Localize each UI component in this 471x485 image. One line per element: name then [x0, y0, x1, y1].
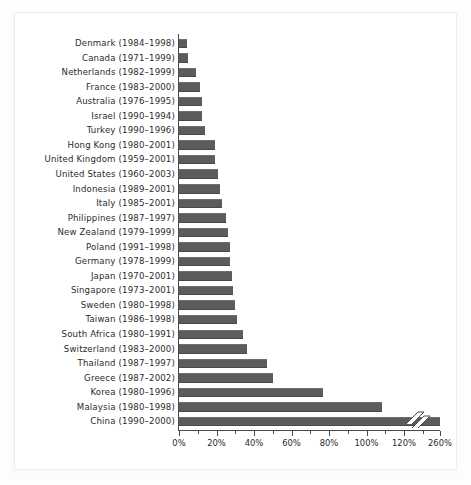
bar-category-label: Greece(1987–2002): [15, 371, 175, 385]
bar-segment: [179, 82, 200, 92]
table-row: Canada(1971–1999): [0, 51, 471, 65]
axis-tick-minor: [385, 431, 386, 434]
bar-category-label: Singapore(1973–2001): [15, 283, 175, 297]
table-row: United Kingdom(1959–2001): [0, 152, 471, 166]
bar-category-label: United Kingdom(1959–2001): [15, 152, 175, 166]
table-row: Australia(1976–1995): [0, 94, 471, 108]
bar-year-range: (1987–2002): [119, 373, 175, 383]
bar-year-range: (1959–2001): [119, 154, 175, 164]
bar-year-range: (1989–2001): [119, 184, 175, 194]
bar-category-label: Philippines(1987–1997): [15, 211, 175, 225]
bar-category-label: Thailand(1987–1997): [15, 356, 175, 370]
bar-segment: [179, 213, 226, 223]
bar-year-range: (1980–1996): [119, 387, 175, 397]
bar-segment: [179, 315, 237, 325]
axis-tick: [440, 431, 441, 436]
bar-year-range: (1979–1999): [119, 227, 175, 237]
bar-year-range: (1978–1999): [119, 256, 175, 266]
table-row: Taiwan(1986–1998): [0, 312, 471, 326]
bar-category-label: United States(1960–2003): [15, 167, 175, 181]
bar-segment: [179, 184, 220, 194]
axis-tick-label: 260%: [428, 438, 452, 448]
axis-tick-label: 80%: [320, 438, 339, 448]
table-row: Switzerland(1983–2000): [0, 342, 471, 356]
bar-year-range: (1976–1995): [119, 96, 175, 106]
bar-year-range: (1980–1998): [119, 402, 175, 412]
bar-segment: [179, 228, 228, 238]
bar-year-range: (1983–2000): [119, 82, 175, 92]
bar-category-label: New Zealand(1979–1999): [15, 225, 175, 239]
bar-year-range: (1980–1991): [119, 329, 175, 339]
bar-segment: [179, 330, 243, 340]
table-row: New Zealand(1979–1999): [0, 225, 471, 239]
table-row: Israel(1990–1994): [0, 109, 471, 123]
table-row: Korea(1980–1996): [0, 385, 471, 399]
table-row: Sweden(1980–1998): [0, 298, 471, 312]
table-row: Singapore(1973–2001): [0, 283, 471, 297]
bar-category-label: Taiwan(1986–1998): [15, 312, 175, 326]
table-row: Japan(1970–2001): [0, 269, 471, 283]
bar-category-label: South Africa(1980–1991): [15, 327, 175, 341]
axis-tick-minor: [198, 431, 199, 434]
bar-year-range: (1990–2000): [119, 416, 175, 426]
chart-figure: Denmark(1984–1998)Canada(1971–1999)Nethe…: [0, 0, 471, 485]
bar-category-label: Denmark(1984–1998): [15, 36, 175, 50]
table-row: Poland(1991–1998): [0, 240, 471, 254]
axis-tick-label: 60%: [282, 438, 301, 448]
bar-segment: [179, 39, 187, 49]
bar-category-label: Indonesia(1989–2001): [15, 182, 175, 196]
bar-segment: [179, 359, 267, 369]
bar-category-label: Switzerland(1983–2000): [15, 342, 175, 356]
bar-segment: [179, 97, 202, 107]
axis-tick: [367, 431, 368, 436]
table-row: Greece(1987–2002): [0, 371, 471, 385]
bar-segment: [179, 199, 222, 209]
table-row: Thailand(1987–1997): [0, 356, 471, 370]
axis-tick: [292, 431, 293, 436]
bar-category-label: Turkey(1990–1996): [15, 123, 175, 137]
axis-tick-minor: [348, 431, 349, 434]
bar-segment: [179, 402, 382, 412]
bar-category-label: Netherlands(1982–1999): [15, 65, 175, 79]
bar-segment: [179, 271, 232, 281]
bar-segment: [179, 242, 230, 252]
bar-year-range: (1973–2001): [119, 285, 175, 295]
bar-year-range: (1960–2003): [119, 169, 175, 179]
axis-tick: [254, 431, 255, 436]
axis-tick: [404, 431, 405, 436]
bar-year-range: (1987–1997): [119, 213, 175, 223]
bar-category-label: Malaysia(1980–1998): [15, 400, 175, 414]
table-row: Hong Kong(1980–2001): [0, 138, 471, 152]
bar-category-label: Japan(1970–2001): [15, 269, 175, 283]
plot-area: Denmark(1984–1998)Canada(1971–1999)Nethe…: [0, 0, 471, 485]
table-row: Germany(1978–1999): [0, 254, 471, 268]
bar-segment: [179, 373, 273, 383]
bar-year-range: (1982–1999): [119, 67, 175, 77]
bar-category-label: Canada(1971–1999): [15, 51, 175, 65]
bar-segment: [179, 68, 196, 78]
bar-category-label: Germany(1978–1999): [15, 254, 175, 268]
bar-category-label: Poland(1991–1998): [15, 240, 175, 254]
bar-year-range: (1983–2000): [119, 344, 175, 354]
table-row: Malaysia(1980–1998): [0, 400, 471, 414]
bar-year-range: (1987–1997): [119, 358, 175, 368]
table-row: China(1990–2000): [0, 414, 471, 428]
axis-tick-label: 20%: [207, 438, 226, 448]
table-row: United States(1960–2003): [0, 167, 471, 181]
table-row: South Africa(1980–1991): [0, 327, 471, 341]
bar-category-label: Australia(1976–1995): [15, 94, 175, 108]
axis-tick-minor: [235, 431, 236, 434]
bar-segment: [179, 155, 215, 165]
axis-tick-minor: [273, 431, 274, 434]
bar-segment: [179, 388, 323, 398]
bar-category-label: France(1983–2000): [15, 80, 175, 94]
axis-tick-minor: [423, 431, 424, 434]
axis-tick-label: 100%: [355, 438, 379, 448]
axis-tick: [179, 431, 180, 436]
bar-category-label: Hong Kong(1980–2001): [15, 138, 175, 152]
axis-tick: [217, 431, 218, 436]
bar-segment: [179, 286, 233, 296]
bar-segment: [179, 257, 230, 267]
bar-category-label: Italy(1985–2001): [15, 196, 175, 210]
bar-year-range: (1991–1998): [119, 242, 175, 252]
